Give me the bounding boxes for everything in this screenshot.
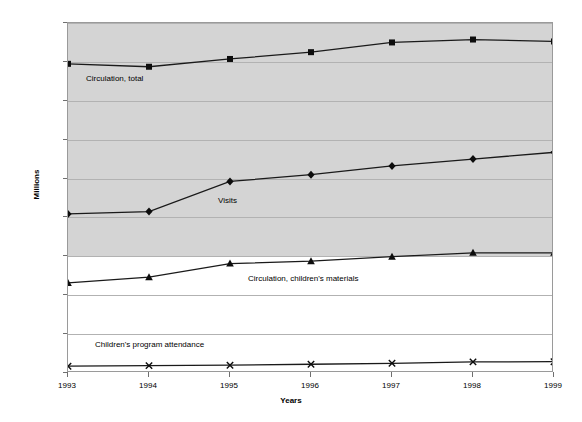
x-tick-label: 1996 <box>280 381 340 390</box>
x-axis-title: Years <box>0 396 582 405</box>
series-label: Circulation, children's materials <box>248 274 358 283</box>
series-0 <box>67 37 553 70</box>
series-1 <box>67 148 553 218</box>
y-axis-title: Millions <box>32 170 41 200</box>
x-tick-label: 1995 <box>199 381 259 390</box>
x-tick-mark <box>391 372 392 377</box>
data-point-marker <box>388 162 395 170</box>
series-label: Children's program attendance <box>95 340 204 349</box>
x-tick-mark <box>553 372 554 377</box>
data-point-marker <box>145 208 152 216</box>
x-tick-label: 1999 <box>523 381 582 390</box>
data-point-marker <box>227 56 233 62</box>
x-tick-label: 1994 <box>118 381 178 390</box>
data-point-marker <box>308 49 314 55</box>
data-point-marker <box>67 210 72 218</box>
data-point-marker <box>389 39 395 45</box>
data-point-marker <box>470 37 476 43</box>
series-label: Visits <box>218 196 237 205</box>
x-tick-mark <box>229 372 230 377</box>
data-point-marker <box>469 155 476 163</box>
series-line <box>68 152 553 214</box>
x-tick-mark <box>67 372 68 377</box>
data-point-marker <box>67 61 71 67</box>
series-label: Circulation, total <box>86 74 143 83</box>
data-point-marker <box>551 38 553 44</box>
x-tick-label: 1997 <box>361 381 421 390</box>
chart-container: Millions 02004006008001,0001,2001,4001,6… <box>0 0 582 422</box>
x-tick-label: 1993 <box>37 381 97 390</box>
data-point-marker <box>146 64 152 70</box>
x-tick-mark <box>472 372 473 377</box>
data-point-marker <box>307 171 314 179</box>
series-3 <box>67 359 553 370</box>
x-tick-mark <box>310 372 311 377</box>
x-tick-mark <box>148 372 149 377</box>
data-point-marker <box>550 148 553 156</box>
data-point-marker <box>226 177 233 185</box>
x-tick-label: 1998 <box>442 381 502 390</box>
